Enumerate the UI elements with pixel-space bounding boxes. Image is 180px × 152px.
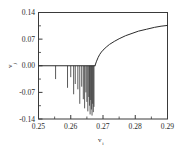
series-upper-branch xyxy=(95,25,168,65)
y-axis-tick-labels: -0.14-0.070.000.070.14 xyxy=(19,8,35,124)
curve-series xyxy=(39,25,168,65)
x-tick-label: 0.26 xyxy=(64,122,77,131)
y-axis-title-subscript: j xyxy=(12,63,17,65)
x-tick-label: 0.27 xyxy=(96,122,109,131)
y-tick-label: 0.14 xyxy=(22,8,35,17)
x-axis-ticks xyxy=(39,115,168,119)
x-tick-label: 0.29 xyxy=(161,122,174,131)
y-tick-label: 0.07 xyxy=(22,35,35,44)
y-axis-title: v j xyxy=(6,63,17,68)
x-axis-title: v i xyxy=(98,136,104,146)
x-tick-label: 0.25 xyxy=(32,122,45,131)
y-tick-label: -0.07 xyxy=(19,88,35,97)
bifurcation-chart-figure: -0.14-0.070.000.070.14 0.250.260.270.280… xyxy=(0,0,180,152)
x-axis-title-subscript: i xyxy=(102,141,104,146)
x-tick-label: 0.28 xyxy=(129,122,142,131)
spike-series xyxy=(56,66,94,116)
chart-svg: -0.14-0.070.000.070.14 0.250.260.270.280… xyxy=(0,0,180,152)
x-axis-tick-labels: 0.250.260.270.280.29 xyxy=(32,122,174,131)
y-tick-label: 0.00 xyxy=(22,61,35,70)
